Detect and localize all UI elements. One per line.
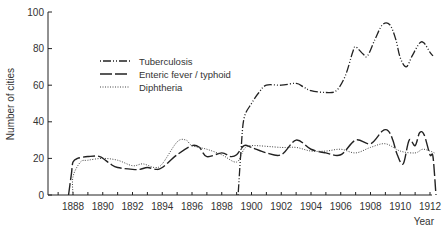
y-axis-label: Number of cities xyxy=(5,68,16,140)
x-tick-label: 1892 xyxy=(121,201,144,212)
x-tick-label: 1900 xyxy=(240,201,263,212)
y-tick-label: 80 xyxy=(33,43,45,54)
legend-label: Enteric fever / typhoid xyxy=(139,69,231,80)
x-tick-label: 1904 xyxy=(300,201,323,212)
legend-item-diphtheria: Diphtheria xyxy=(100,82,183,93)
x-tick-label: 1890 xyxy=(92,201,115,212)
x-axis-label: Year xyxy=(414,216,435,227)
x-tick-label: 1894 xyxy=(151,201,174,212)
diphtheria-line xyxy=(72,139,434,195)
y-tick-label: 20 xyxy=(33,153,45,164)
legend-label: Tuberculosis xyxy=(139,56,193,67)
y-axis: 020406080100 xyxy=(27,7,52,201)
series-lines xyxy=(69,23,436,195)
legend: Tuberculosis Enteric fever / typhoid Dip… xyxy=(100,56,231,93)
tuberculosis-line xyxy=(238,23,433,195)
legend-item-tuberculosis: Tuberculosis xyxy=(100,56,193,67)
line-chart: 020406080100 188818901892189418961898190… xyxy=(0,0,443,237)
x-tick-label: 1888 xyxy=(62,201,85,212)
y-tick-label: 100 xyxy=(27,7,44,18)
y-tick-label: 60 xyxy=(33,80,45,91)
y-tick-label: 0 xyxy=(38,190,44,201)
x-tick-label: 1910 xyxy=(389,201,412,212)
legend-label: Diphtheria xyxy=(139,82,183,93)
x-tick-label: 1898 xyxy=(211,201,234,212)
x-tick-label: 1908 xyxy=(359,201,382,212)
x-axis: 1888189018921894189618981900190219041906… xyxy=(48,192,442,212)
enteric-fever-typhoid-line xyxy=(69,130,436,195)
x-tick-label: 1912 xyxy=(419,201,442,212)
x-tick-label: 1896 xyxy=(181,201,204,212)
y-tick-label: 40 xyxy=(33,116,45,127)
x-tick-label: 1902 xyxy=(270,201,293,212)
x-tick-label: 1906 xyxy=(330,201,353,212)
legend-item-typhoid: Enteric fever / typhoid xyxy=(100,69,231,80)
